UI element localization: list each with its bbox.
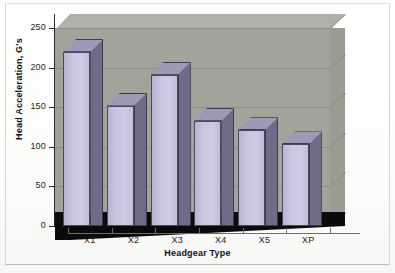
y-axis-tick xyxy=(49,28,55,29)
bar-side-face xyxy=(90,39,103,226)
y-axis-tick xyxy=(49,186,55,187)
plot-area xyxy=(55,14,345,226)
y-axis-tick-label: 150 xyxy=(30,101,46,111)
x-axis-title: Headgear Type xyxy=(0,248,395,258)
y-axis-tick xyxy=(49,226,55,227)
frame-top-rule xyxy=(6,3,389,4)
bar xyxy=(238,130,265,226)
x-axis-tick xyxy=(155,228,156,234)
frame-left-rule xyxy=(5,4,6,266)
bar xyxy=(151,75,178,226)
x-axis-tick-label: X4 xyxy=(198,235,244,245)
x-axis-tick xyxy=(199,228,200,234)
bar xyxy=(63,52,90,226)
bar-side-face xyxy=(178,62,191,226)
y-axis-title: Head Acceleration, G's xyxy=(14,24,24,154)
x-axis-tick xyxy=(112,228,113,234)
y-axis-tick xyxy=(49,147,55,148)
bar-side-face xyxy=(309,131,322,226)
y-axis-tick xyxy=(49,107,55,108)
bar xyxy=(194,121,221,226)
bar xyxy=(282,144,309,226)
bar-side-face xyxy=(221,108,234,226)
x-axis-tick-label: X1 xyxy=(67,235,113,245)
x-axis-tick xyxy=(330,228,331,234)
y-axis-tick-label: 0 xyxy=(41,220,46,230)
y-axis-tick-label: 250 xyxy=(30,22,46,32)
bar-front-face xyxy=(151,75,178,226)
bar-front-face xyxy=(194,121,221,226)
x-axis-tick xyxy=(68,228,69,234)
bar-front-face xyxy=(282,144,309,226)
frame-bottom-rule xyxy=(6,264,389,265)
x-axis-tick-label: X5 xyxy=(242,235,288,245)
frame-right-rule xyxy=(389,4,390,266)
gridline xyxy=(55,28,330,29)
x-axis-tick-label: X3 xyxy=(154,235,200,245)
x-axis-tick-label: X2 xyxy=(111,235,157,245)
x-axis-tick-label: XP xyxy=(285,235,331,245)
y-axis-tick-label: 200 xyxy=(30,62,46,72)
bar-front-face xyxy=(107,106,134,226)
bar-front-face xyxy=(238,130,265,226)
bar-chart-figure: 050100150200250 Head Acceleration, G's X… xyxy=(0,0,395,273)
y-axis-tick xyxy=(49,68,55,69)
y-axis-line xyxy=(54,14,55,226)
bar-side-face xyxy=(134,93,147,226)
x-axis-tick xyxy=(286,228,287,234)
x-axis-tick xyxy=(243,228,244,234)
bar xyxy=(107,106,134,226)
bar-front-face xyxy=(63,52,90,226)
y-axis-tick-label: 50 xyxy=(36,180,46,190)
bar-side-face xyxy=(265,117,278,226)
y-axis-tick-label: 100 xyxy=(30,141,46,151)
